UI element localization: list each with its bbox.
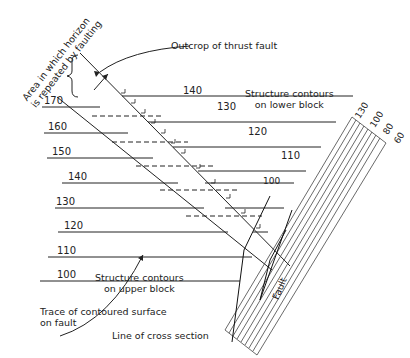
- contour-label: 140: [183, 85, 202, 96]
- contour-label: 170: [44, 95, 63, 106]
- contour-label: 130: [56, 196, 75, 207]
- contour-label: 100: [57, 269, 76, 280]
- contour-label: 100: [263, 176, 280, 186]
- contour-label: 110: [281, 150, 300, 161]
- contour-label: 130: [217, 101, 236, 112]
- cross-section-label: Line of cross section: [112, 330, 209, 341]
- contour-label: 160: [48, 121, 67, 132]
- contour-label: 150: [52, 146, 71, 157]
- contour-label: 110: [57, 245, 76, 256]
- trace-label: Trace of contoured surfaceon fault: [40, 306, 167, 328]
- outcrop-label: Outcrop of thrust fault: [171, 40, 277, 51]
- geologic-diagram: Area in which horizon is repeated by fau…: [0, 0, 410, 358]
- lower-block-label: Structure contourson lower block: [245, 88, 334, 110]
- upper-block-label: Structure contourson upper block: [95, 272, 184, 294]
- contour-label: 120: [64, 220, 83, 231]
- contour-label: 120: [248, 126, 267, 137]
- contour-label: 140: [68, 171, 87, 182]
